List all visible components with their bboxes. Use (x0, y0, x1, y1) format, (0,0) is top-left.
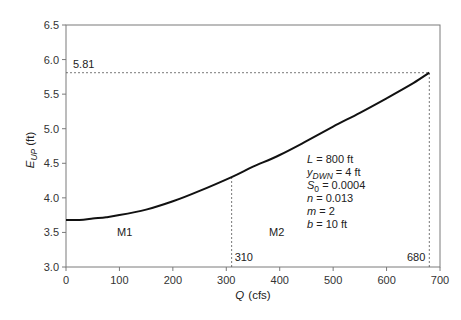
y-tick-label: 3.0 (44, 261, 59, 273)
x-tick-label: 200 (164, 274, 182, 286)
reference-label: 5.81 (73, 58, 94, 70)
y-tick-label: 3.5 (44, 226, 59, 238)
y-tick-label: 4.5 (44, 157, 59, 169)
region-labels: M1M2 (117, 226, 284, 238)
x-tick-label: 500 (324, 274, 342, 286)
parameter-annotation: m = 2 (307, 205, 335, 217)
x-tick-label: 100 (110, 274, 128, 286)
region-label: M1 (117, 226, 132, 238)
parameter-annotation: n = 0.013 (307, 192, 353, 204)
parameter-annotation: L = 800 ft (307, 153, 353, 165)
data-line (66, 73, 429, 220)
x-tick-label: 300 (217, 274, 235, 286)
y-tick-label: 6.5 (44, 19, 59, 31)
x-tick-label: 600 (377, 274, 395, 286)
x-axis-ticks: 0100200300400500600700 (63, 267, 449, 286)
parameter-annotation: b = 10 ft (307, 218, 347, 230)
reference-label: 680 (407, 251, 425, 263)
y-tick-label: 5.0 (44, 123, 59, 135)
y-axis-ticks: 3.03.54.04.55.05.56.06.5 (44, 19, 66, 273)
reference-label: 310 (235, 251, 253, 263)
x-tick-label: 0 (63, 274, 69, 286)
y-tick-label: 5.5 (44, 88, 59, 100)
y-tick-label: 4.0 (44, 192, 59, 204)
x-tick-label: 700 (431, 274, 449, 286)
region-label: M2 (269, 226, 284, 238)
y-tick-label: 6.0 (44, 54, 59, 66)
chart: 3.03.54.04.55.05.56.06.5 010020030040050… (0, 0, 461, 320)
y-axis-label: EUP(ft) (24, 132, 39, 169)
parameter-annotations: L = 800 ftyDWN = 4 ftS0 = 0.0004n = 0.01… (306, 153, 365, 230)
x-axis-label: Q(cfs) (235, 289, 270, 301)
x-tick-label: 400 (271, 274, 289, 286)
